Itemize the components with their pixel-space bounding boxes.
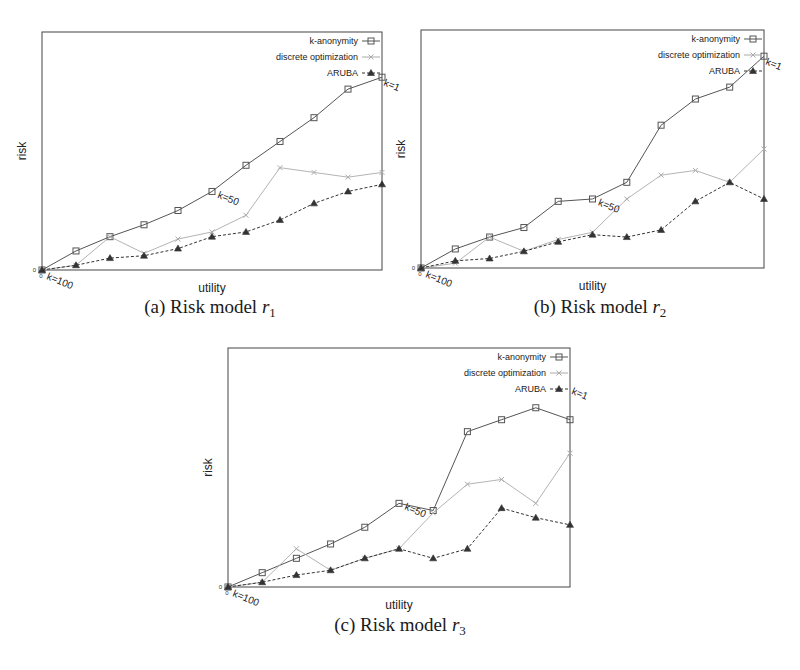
data-point [498, 505, 505, 511]
data-point [533, 501, 538, 506]
annotation-k100: k=100 [231, 588, 261, 609]
annotation-k1: k=1 [570, 385, 590, 402]
caption-c-text: (c) Risk model [334, 614, 452, 635]
x-tick-label: 0 [225, 590, 229, 596]
y-axis-label: risk [201, 457, 215, 477]
chart-c-svg: utilityrisk00k=100k=50k=1k-anonymitydisc… [0, 0, 800, 620]
series-aruba [225, 505, 574, 590]
caption-c: (c) Risk model r3 [290, 614, 510, 639]
series-k-anonymity [225, 405, 573, 590]
series-discrete-optimization [226, 451, 573, 590]
legend: k-anonymitydiscrete optimizationARUBA [464, 352, 568, 394]
chart-panel-c: utilityrisk00k=100k=50k=1k-anonymitydisc… [0, 0, 800, 670]
series-line [228, 408, 570, 587]
data-point [431, 510, 436, 515]
data-point [294, 546, 299, 551]
annotation-k50: k=50 [403, 501, 428, 520]
legend-label: discrete optimization [464, 368, 546, 378]
x-axis-label: utility [385, 598, 412, 612]
legend-label: ARUBA [515, 384, 546, 394]
series-line [228, 453, 570, 587]
data-point [430, 555, 437, 561]
caption-c-sub: 3 [459, 623, 466, 638]
legend-label: k-anonymity [497, 352, 546, 362]
y-tick-label: 0 [219, 584, 223, 590]
